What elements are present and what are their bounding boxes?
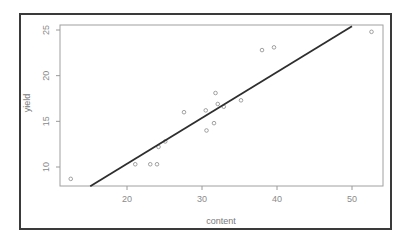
data-point xyxy=(182,110,186,114)
regression-line xyxy=(90,26,352,186)
data-point xyxy=(212,121,216,125)
y-tick-label: 20 xyxy=(41,71,51,81)
x-tick-label: 50 xyxy=(347,194,357,204)
data-point xyxy=(69,177,73,181)
y-tick-label: 10 xyxy=(41,162,51,172)
x-tick-label: 40 xyxy=(272,194,282,204)
data-point xyxy=(155,162,159,166)
data-point xyxy=(239,99,243,103)
x-tick-label: 20 xyxy=(122,194,132,204)
data-point xyxy=(272,46,276,50)
y-tick-label: 15 xyxy=(41,116,51,126)
x-tick-label: 30 xyxy=(197,194,207,204)
data-point xyxy=(214,91,218,95)
data-point xyxy=(260,48,264,52)
data-point xyxy=(370,30,374,34)
fit-line xyxy=(90,26,352,186)
data-point xyxy=(205,129,209,133)
data-point xyxy=(148,162,152,166)
data-point xyxy=(204,109,208,113)
y-axis: 10152025 xyxy=(41,25,60,172)
y-axis-label: yield xyxy=(22,94,32,113)
x-axis: 20304050 xyxy=(122,186,357,204)
data-point xyxy=(216,102,220,106)
x-axis-label: content xyxy=(206,216,236,226)
data-point xyxy=(133,162,137,166)
y-tick-label: 25 xyxy=(41,25,51,35)
scatter-plot: 20304050 10152025 content yield xyxy=(0,0,412,244)
